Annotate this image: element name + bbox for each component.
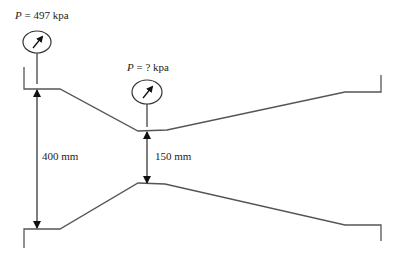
throat-pressure-value: ? kpa <box>145 61 169 73</box>
venturi-diagram <box>0 0 400 259</box>
inlet-pressure-value: 497 kpa <box>33 9 68 21</box>
upper-pipe-wall <box>24 67 381 131</box>
throat-pressure-label: P = ? kpa <box>127 62 169 73</box>
inlet-pressure-label: P = 497 kpa <box>15 10 69 21</box>
lower-pipe-wall <box>24 183 381 248</box>
throat-diameter-label: 150 mm <box>155 151 191 162</box>
throat-pressure-gauge <box>132 80 162 127</box>
inlet-diameter-label: 400 mm <box>42 151 78 162</box>
throat-pressure-eq: = <box>134 61 146 73</box>
inlet-pressure-var: P <box>15 9 22 21</box>
inlet-pressure-gauge <box>23 31 51 84</box>
throat-pressure-var: P <box>127 61 134 73</box>
inlet-pressure-eq: = <box>22 9 34 21</box>
